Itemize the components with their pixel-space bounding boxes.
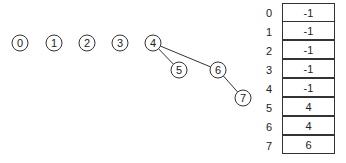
array-index: 4 <box>266 83 278 95</box>
node-5: 5 <box>171 62 187 78</box>
union-find-forest: 01234567 <box>0 0 262 163</box>
array-cell: -1 <box>282 3 335 22</box>
svg-text:0: 0 <box>17 37 23 49</box>
svg-text:4: 4 <box>150 37 156 49</box>
svg-text:3: 3 <box>117 37 123 49</box>
array-index: 2 <box>266 45 278 57</box>
array-index: 7 <box>266 140 278 152</box>
svg-text:5: 5 <box>176 64 182 76</box>
array-cell: -1 <box>282 78 335 97</box>
node-1: 1 <box>46 35 62 51</box>
node-7: 7 <box>235 90 251 106</box>
array-index: 0 <box>266 7 278 19</box>
node-6: 6 <box>210 62 226 78</box>
array-cell: -1 <box>282 59 335 78</box>
edge-6-7 <box>223 76 237 92</box>
array-index: 1 <box>266 26 278 38</box>
svg-text:1: 1 <box>51 37 57 49</box>
array-index: 5 <box>266 102 278 114</box>
svg-text:7: 7 <box>240 92 246 104</box>
array-cell: 4 <box>282 97 335 116</box>
svg-text:6: 6 <box>215 64 221 76</box>
array-index: 6 <box>266 121 278 133</box>
array-cell: 6 <box>282 135 335 154</box>
node-3: 3 <box>112 35 128 51</box>
node-4: 4 <box>145 35 161 51</box>
array-cell: 4 <box>282 116 335 135</box>
array-cell: -1 <box>282 40 335 59</box>
node-0: 0 <box>12 35 28 51</box>
array-cell: -1 <box>282 21 335 40</box>
edge-4-6 <box>160 46 210 67</box>
svg-text:2: 2 <box>84 37 90 49</box>
array-index: 3 <box>266 64 278 76</box>
node-2: 2 <box>79 35 95 51</box>
